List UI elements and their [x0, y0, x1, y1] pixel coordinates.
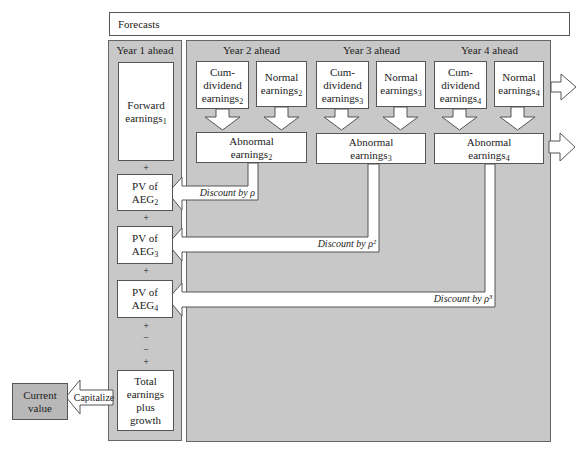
cum-dividend-earnings-4-box: Cum- dividend earnings4: [434, 61, 487, 109]
abnormal-earnings-3-box: Abnormal earnings3: [316, 133, 426, 164]
plus-operator: +: [136, 212, 156, 223]
down-arrow-icon: [324, 109, 359, 130]
pv-aeg3-box: PV of AEG3: [117, 226, 173, 264]
pv-aeg4-box: PV of AEG4: [117, 280, 173, 318]
minus-operator: −: [136, 332, 156, 343]
discount-label-aeg4: Discount by ρ³: [400, 293, 492, 304]
discount-label-aeg3: Discount by ρ²: [280, 238, 376, 249]
plus-operator: +: [136, 265, 156, 276]
plus-operator: +: [136, 356, 156, 367]
right-arrow-icon: [549, 133, 575, 161]
down-arrow-icon: [264, 107, 299, 130]
abnormal-earnings-4-box: Abnormal earnings4: [434, 133, 544, 164]
normal-earnings-3-box: Normal earnings3: [376, 61, 426, 107]
down-arrow-icon: [442, 109, 477, 130]
cum-dividend-earnings-2-box: Cum- dividend earnings2: [196, 61, 249, 109]
forward-earnings-box: Forward earnings1: [118, 62, 174, 161]
plus-operator: +: [136, 320, 156, 331]
cum-dividend-earnings-3-box: Cum- dividend earnings3: [316, 61, 369, 109]
pv-aeg2-box: PV of AEG2: [117, 174, 173, 211]
current-value-box: Current value: [12, 383, 68, 420]
discount-label-aeg2: Discount by ρ: [180, 187, 255, 198]
down-arrow-icon: [205, 109, 240, 130]
right-arrow-icon: [551, 74, 576, 100]
capitalize-label: Capitalize: [73, 390, 115, 405]
normal-earnings-4-box: Normal earnings4: [494, 61, 544, 107]
minus-operator: −: [136, 344, 156, 355]
down-arrow-icon: [500, 107, 535, 130]
total-earnings-box: Total earnings plus growth: [117, 370, 174, 431]
plus-operator: +: [136, 162, 156, 173]
down-arrow-icon: [383, 107, 418, 130]
abnormal-earnings-2-box: Abnormal earnings2: [196, 132, 307, 163]
normal-earnings-2-box: Normal earnings2: [256, 61, 307, 107]
